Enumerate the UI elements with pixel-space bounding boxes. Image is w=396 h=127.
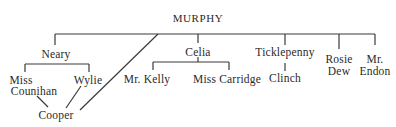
node-mr-endon-line1: Mr. xyxy=(367,54,384,65)
node-wylie: Wylie xyxy=(74,75,102,86)
node-ticklepenny: Ticklepenny xyxy=(255,47,314,58)
node-rosie-dew-line2: Dew xyxy=(328,66,350,77)
node-rosie-dew-line1: Rosie xyxy=(325,54,352,65)
node-mr-kelly: Mr. Kelly xyxy=(124,74,171,85)
edge-counihan-cooper xyxy=(37,96,48,107)
character-tree-diagram: MURPHY Neary Celia Ticklepenny Rosie Dew… xyxy=(0,0,396,127)
node-miss-carridge: Miss Carridge xyxy=(193,74,261,85)
node-neary: Neary xyxy=(41,49,70,60)
node-murphy: MURPHY xyxy=(173,13,224,24)
edge-murphy-cooper xyxy=(80,34,158,110)
node-cooper: Cooper xyxy=(38,110,73,121)
node-celia: Celia xyxy=(185,47,210,58)
node-mr-endon-line2: Endon xyxy=(359,66,390,77)
node-clinch: Clinch xyxy=(269,73,301,84)
edge-wylie-cooper xyxy=(66,86,81,108)
node-miss-counihan-line2: Counihan xyxy=(11,86,57,97)
